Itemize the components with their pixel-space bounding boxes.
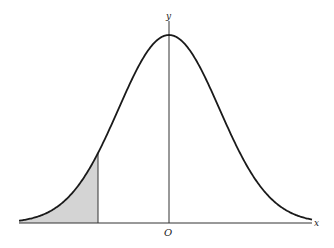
normal-curve-diagram: y x O xyxy=(0,0,334,248)
shaded-tail-region xyxy=(19,153,98,223)
y-axis-label: y xyxy=(165,11,172,21)
bell-curve xyxy=(19,35,312,221)
x-axis-label: x xyxy=(314,218,319,228)
origin-label: O xyxy=(164,227,172,238)
